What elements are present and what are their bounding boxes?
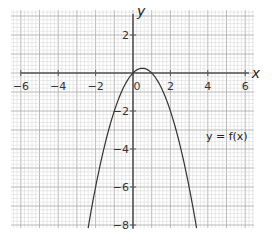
svg-text:0: 0 — [134, 80, 141, 93]
svg-text:6: 6 — [242, 80, 249, 93]
svg-text:4: 4 — [204, 80, 211, 93]
svg-text:2: 2 — [122, 29, 129, 42]
svg-text:−6: −6 — [113, 181, 129, 194]
function-graph: −6−4−202462−2−4−6−8 x y y = f(x) — [0, 0, 279, 252]
svg-text:−8: −8 — [113, 219, 129, 232]
svg-text:−6: −6 — [13, 80, 29, 93]
y-axis-label: y — [136, 3, 146, 19]
svg-text:−2: −2 — [87, 80, 103, 93]
function-label: y = f(x) — [206, 130, 248, 143]
svg-text:−4: −4 — [50, 80, 66, 93]
svg-text:2: 2 — [167, 80, 174, 93]
x-axis-label: x — [251, 65, 261, 81]
svg-text:−4: −4 — [113, 143, 129, 156]
